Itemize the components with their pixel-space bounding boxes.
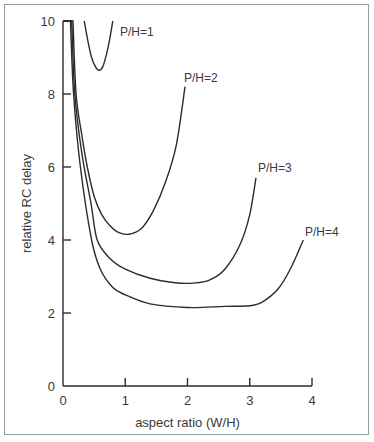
x-tick-label: 4 <box>308 393 315 408</box>
y-tick-label: 4 <box>48 233 55 248</box>
y-tick-label: 8 <box>48 87 55 102</box>
series-label-ph2: P/H=2 <box>184 71 218 85</box>
x-axis-label: aspect ratio (W/H) <box>135 415 240 430</box>
x-tick-label: 2 <box>184 393 191 408</box>
series-label-ph1: P/H=1 <box>120 25 154 39</box>
x-tick-label: 0 <box>59 393 66 408</box>
series-line-ph2 <box>63 21 185 234</box>
y-tick-label: 6 <box>48 160 55 175</box>
series-label-ph3: P/H=3 <box>258 161 292 175</box>
x-tick-label: 3 <box>246 393 253 408</box>
y-axis-label: relative RC delay <box>19 154 34 253</box>
y-tick-label: 0 <box>48 379 55 394</box>
y-tick-label: 2 <box>48 306 55 321</box>
x-tick-label: 1 <box>122 393 129 408</box>
y-tick-label: 10 <box>41 14 55 29</box>
y-ticks: 0246810 <box>41 14 71 394</box>
x-ticks: 01234 <box>59 378 315 408</box>
series-line-ph1 <box>84 21 113 70</box>
series-label-ph4: P/H=4 <box>305 225 339 239</box>
rc-delay-chart: 01234 0246810 aspect ratio (W/H) relativ… <box>0 0 374 442</box>
